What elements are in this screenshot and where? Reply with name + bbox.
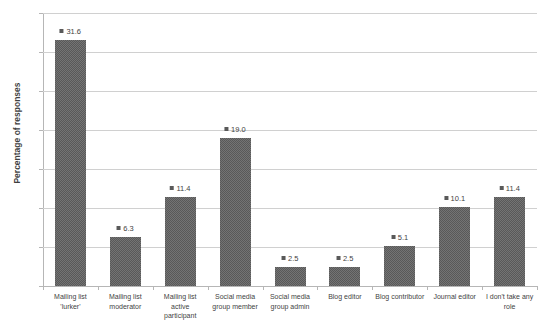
y-tick-mark [39, 208, 43, 209]
data-label: 2.5 [336, 255, 353, 263]
data-label: 19.0 [225, 126, 246, 134]
bar [275, 267, 306, 287]
y-tick-mark [39, 247, 43, 248]
gridline [43, 130, 537, 131]
chart-title: Roles taken in communication methods [0, 0, 542, 2]
x-tick-label: Journal editor [427, 292, 482, 302]
data-label: 31.6 [60, 28, 81, 36]
gridline [43, 169, 537, 170]
data-label-value: 5.1 [398, 233, 408, 242]
bar [329, 267, 360, 287]
data-label-value: 31.6 [66, 27, 81, 36]
data-label: 2.5 [282, 255, 299, 263]
x-tick-label: Mailing listactiveparticipant [153, 292, 208, 321]
x-tick-label: Social mediagroup member [208, 292, 263, 311]
y-tick-mark [39, 91, 43, 92]
bar [55, 40, 86, 286]
x-tick-mark [98, 286, 99, 290]
data-label-marker-icon [282, 256, 286, 260]
data-label: 6.3 [117, 225, 134, 233]
plot-area: 31.66.311.419.02.52.55.110.111.4 [43, 13, 537, 286]
x-tick-mark [208, 286, 209, 290]
gridline [43, 91, 537, 92]
x-tick-label: Mailing listmoderator [98, 292, 153, 311]
x-tick-mark [372, 286, 373, 290]
bar [220, 138, 251, 286]
x-tick-mark [537, 286, 538, 290]
x-tick-mark [482, 286, 483, 290]
bar-chart: Roles taken in communication methods Per… [0, 0, 542, 330]
x-tick-label: Blog editor [317, 292, 372, 302]
x-tick-label: Social mediagroup admin [263, 292, 318, 311]
data-label-marker-icon [117, 226, 121, 230]
data-label-marker-icon [391, 235, 395, 239]
data-label: 10.1 [444, 195, 465, 203]
y-tick-mark [39, 169, 43, 170]
bar [110, 237, 141, 286]
data-label-marker-icon [225, 127, 229, 131]
data-label-value: 10.1 [451, 194, 466, 203]
x-tick-mark [427, 286, 428, 290]
bar [384, 246, 415, 286]
y-tick-mark [39, 130, 43, 131]
data-label: 5.1 [391, 234, 408, 242]
x-tick-label: I don't take anyrole [482, 292, 537, 311]
data-label-value: 11.4 [506, 184, 520, 193]
x-tick-mark [153, 286, 154, 290]
y-tick-mark [39, 52, 43, 53]
data-label-value: 2.5 [343, 254, 353, 263]
data-label-marker-icon [60, 29, 64, 33]
y-tick-mark [39, 13, 43, 14]
data-label-marker-icon [170, 186, 174, 190]
bar [494, 197, 525, 286]
data-label-marker-icon [336, 256, 340, 260]
data-label-value: 2.5 [288, 254, 298, 263]
x-tick-label: Mailing list'lurker' [43, 292, 98, 311]
data-label-marker-icon [444, 196, 448, 200]
data-label-value: 6.3 [123, 224, 133, 233]
bar [165, 197, 196, 286]
x-tick-mark [43, 286, 44, 290]
data-label: 11.4 [170, 185, 191, 193]
x-tick-mark [317, 286, 318, 290]
gridline [43, 52, 537, 53]
y-axis-title: Percentage of responses [12, 58, 22, 208]
data-label-value: 11.4 [176, 184, 190, 193]
gridline [43, 13, 537, 14]
bar [439, 207, 470, 286]
data-label-marker-icon [499, 186, 503, 190]
data-label-value: 19.0 [231, 125, 246, 134]
x-tick-mark [263, 286, 264, 290]
x-tick-label: Blog contributor [372, 292, 427, 302]
data-label: 11.4 [499, 185, 520, 193]
